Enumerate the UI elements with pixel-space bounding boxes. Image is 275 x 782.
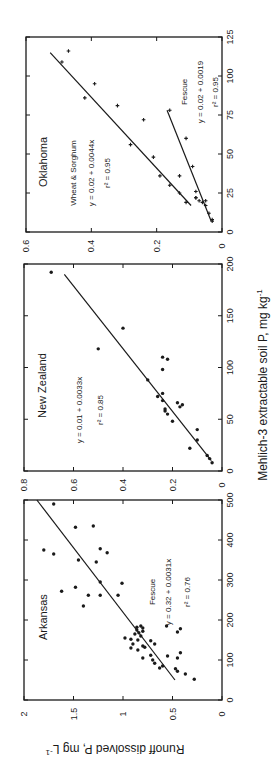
- figure-rotated-scatter-panels: 010020030040050000.511.52ArkansasFescuey…: [0, 0, 275, 782]
- data-point: [123, 636, 126, 639]
- data-point: [193, 678, 196, 681]
- y-tick-label: 1.5: [69, 708, 79, 721]
- data-point: [152, 155, 156, 159]
- data-point: [50, 271, 53, 274]
- x-tick-label: 0: [225, 468, 235, 473]
- data-point: [166, 358, 169, 361]
- equation-text: y = 0.02 + 0.0019: [196, 60, 205, 123]
- data-point: [121, 326, 124, 329]
- data-point: [131, 642, 134, 645]
- data-point: [60, 590, 63, 593]
- data-point: [205, 454, 208, 457]
- y-tick-label: 1: [118, 711, 128, 716]
- data-point: [95, 560, 98, 563]
- y-tick-label: 2: [19, 711, 29, 716]
- x-tick-label: 200: [225, 256, 235, 271]
- x-tick-label: 100: [225, 68, 235, 83]
- y-tick-label: 0.2: [168, 479, 178, 492]
- x-tick-label: 400: [225, 532, 235, 547]
- data-point: [87, 594, 90, 597]
- y-tick-label: 0.6: [69, 479, 79, 492]
- data-point: [105, 551, 108, 554]
- data-point: [67, 49, 71, 53]
- x-axis-title-superscript: -1: [255, 289, 264, 297]
- data-point: [99, 580, 102, 583]
- x-tick-label: 100: [225, 652, 235, 667]
- x-axis-title: Mehlich-3 extractable soil P, mg kg-1: [255, 289, 270, 481]
- panel-title: Oklahoma: [37, 136, 49, 187]
- data-point: [196, 438, 199, 441]
- y-tick-label: 0.4: [118, 479, 128, 492]
- data-point: [82, 604, 85, 607]
- data-point: [161, 664, 164, 667]
- data-point: [156, 395, 159, 398]
- y-tick-label: 0: [217, 243, 227, 248]
- data-point: [139, 634, 142, 637]
- data-point: [204, 199, 208, 203]
- data-point: [136, 648, 139, 651]
- data-point: [149, 639, 152, 642]
- x-tick-label: 50: [225, 414, 235, 424]
- data-point: [129, 638, 132, 641]
- data-point: [137, 631, 140, 634]
- panel-arkansas: 010020030040050000.511.52ArkansasFescuey…: [19, 492, 235, 720]
- data-point: [42, 548, 45, 551]
- equation-text: Wheat & Sorghum: [69, 140, 78, 206]
- data-point: [179, 627, 182, 630]
- x-tick-label: 50: [225, 149, 235, 159]
- data-point: [74, 586, 77, 589]
- data-point: [161, 392, 164, 395]
- panel-new-zealand: 05010015020000.20.40.60.8New Zealandy = …: [19, 256, 235, 491]
- data-point: [141, 656, 144, 659]
- data-point: [99, 547, 102, 550]
- chart-canvas: 010020030040050000.511.52ArkansasFescuey…: [0, 0, 275, 782]
- data-point: [188, 447, 191, 450]
- data-point: [153, 662, 156, 665]
- data-point: [176, 656, 179, 659]
- data-point: [184, 137, 188, 141]
- data-point: [142, 118, 146, 122]
- data-point: [141, 644, 144, 647]
- y-tick-label: 0: [217, 711, 227, 716]
- regression-line: [64, 274, 211, 460]
- data-point: [141, 630, 144, 633]
- x-tick-label: 0: [225, 229, 235, 234]
- x-tick-label: 200: [225, 612, 235, 627]
- y-tick-label: 0.5: [168, 708, 178, 721]
- data-point: [151, 658, 154, 661]
- equation-text: r² = 0.95: [103, 157, 112, 188]
- equation-text: Fescue: [180, 78, 189, 105]
- data-point: [139, 624, 142, 627]
- data-point: [179, 651, 182, 654]
- panel-oklahoma: 025507510012500.20.40.6OklahomaWheat & S…: [21, 29, 235, 252]
- data-point: [161, 355, 164, 358]
- data-point: [136, 638, 139, 641]
- panel-title: New Zealand: [36, 353, 48, 418]
- data-point: [135, 626, 138, 629]
- data-point: [153, 642, 156, 645]
- equation-text: r² = 0.76: [183, 576, 192, 607]
- equation-text: y = 0.32 + 0.0031x: [164, 559, 173, 625]
- data-point: [97, 347, 100, 350]
- data-point: [133, 632, 136, 635]
- data-point: [194, 196, 198, 200]
- data-point: [171, 420, 174, 423]
- regression-line: [167, 110, 211, 221]
- data-point: [77, 558, 80, 561]
- data-point: [210, 461, 213, 464]
- y-axis-title: Runoff dissolved P, mg L-1: [45, 742, 184, 757]
- equation-text: r² = 0.85: [96, 394, 105, 425]
- data-point: [161, 368, 164, 371]
- y-tick-label: 0.8: [19, 479, 29, 492]
- data-point: [120, 582, 123, 585]
- y-axis-title-superscript: -1: [45, 748, 53, 757]
- data-point: [176, 630, 179, 633]
- x-tick-label: 150: [225, 308, 235, 323]
- data-point: [116, 594, 119, 597]
- y-tick-label: 0.2: [152, 240, 162, 253]
- data-point: [129, 646, 132, 649]
- plot-frame: [24, 264, 222, 471]
- data-point: [191, 165, 195, 169]
- data-point: [92, 524, 95, 527]
- panel-title: Arkansas: [37, 594, 49, 640]
